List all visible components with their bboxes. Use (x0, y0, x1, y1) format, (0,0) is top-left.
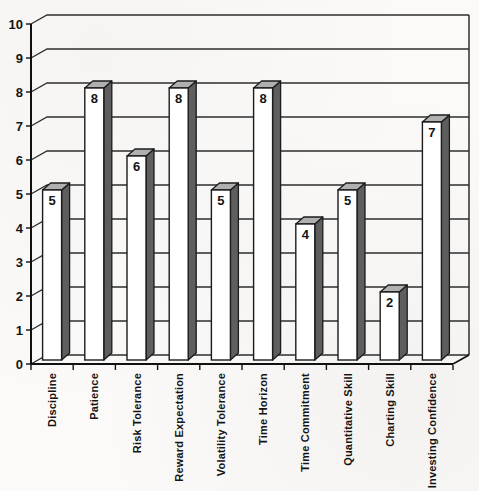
bar-chart-figure: 0123456789105Discipline8Patience6Risk To… (0, 0, 479, 491)
bar-value-label: 8 (259, 91, 266, 106)
y-tick-label: 2 (16, 289, 23, 304)
bar-front-face (422, 122, 441, 360)
bar-value-label: 8 (91, 91, 98, 106)
y-tick-label: 1 (16, 323, 23, 338)
bar-side-face (230, 183, 238, 360)
category-label: Time Commitment (299, 373, 311, 472)
y-tick-label: 3 (16, 255, 23, 270)
bar-front-face (169, 88, 188, 360)
bar-side-face (104, 81, 112, 360)
bar-value-label: 6 (133, 159, 140, 174)
y-tick-label: 9 (16, 51, 23, 66)
bar: 6 (127, 149, 154, 360)
bar-side-face (357, 183, 365, 360)
bar-value-label: 8 (175, 91, 182, 106)
bar: 4 (296, 217, 323, 360)
y-tick-label: 10 (9, 17, 23, 32)
chart-page: 0123456789105Discipline8Patience6Risk To… (0, 0, 479, 491)
bar-side-face (62, 183, 70, 360)
bar-front-face (127, 156, 146, 360)
category-label: Reward Expectation (173, 373, 185, 482)
y-tick-label: 4 (16, 221, 24, 236)
y-tick-label: 6 (16, 153, 23, 168)
grid-line (31, 49, 469, 58)
bar: 8 (169, 81, 196, 360)
bar-side-face (146, 149, 154, 360)
category-label: Patience (88, 373, 100, 420)
bar-side-face (441, 115, 449, 360)
category-label: Quantitative Skill (342, 373, 354, 466)
bar: 7 (422, 115, 449, 360)
category-label: Volatility Tolerance (215, 373, 227, 476)
y-tick-label: 7 (16, 119, 23, 134)
category-label: Risk Tolerance (131, 373, 143, 453)
bar-value-label: 4 (302, 227, 310, 242)
bar-front-face (211, 190, 230, 360)
bar-value-label: 7 (428, 125, 435, 140)
bar-front-face (43, 190, 62, 360)
y-tick-label: 0 (16, 357, 23, 372)
category-label: Charting Skill (384, 373, 396, 447)
bar: 2 (380, 285, 407, 360)
category-label: Discipline (46, 373, 58, 427)
bar-front-face (338, 190, 357, 360)
floor-right-edge (453, 355, 469, 364)
bar-value-label: 5 (344, 193, 351, 208)
bar: 5 (211, 183, 238, 360)
bar: 8 (254, 81, 281, 360)
bar-side-face (188, 81, 196, 360)
bar: 5 (43, 183, 70, 360)
bar: 5 (338, 183, 365, 360)
y-tick-label: 5 (16, 187, 23, 202)
chart-svg: 0123456789105Discipline8Patience6Risk To… (0, 0, 479, 491)
bar-front-face (254, 88, 273, 360)
bar-side-face (315, 217, 323, 360)
bar-side-face (399, 285, 407, 360)
y-tick-label: 8 (16, 85, 23, 100)
bar-side-face (273, 81, 281, 360)
bar-value-label: 5 (217, 193, 224, 208)
bar: 8 (85, 81, 112, 360)
bar-value-label: 2 (386, 295, 393, 310)
category-label: Investing Confidence (426, 373, 438, 488)
bar-front-face (296, 224, 315, 360)
bar-value-label: 5 (48, 193, 55, 208)
grid-line (31, 15, 469, 24)
bar-front-face (85, 88, 104, 360)
category-label: Time Horizon (257, 373, 269, 445)
